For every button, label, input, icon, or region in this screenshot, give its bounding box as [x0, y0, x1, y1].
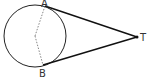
tangent-diagram: A B T — [0, 0, 147, 79]
tangent-bt — [43, 37, 137, 65]
tangent-at — [45, 6, 137, 37]
radius-to-b — [35, 36, 43, 65]
point-t — [136, 36, 139, 39]
radius-to-a — [35, 6, 45, 36]
label-a: A — [41, 0, 48, 9]
label-b: B — [39, 68, 46, 79]
label-t: T — [139, 32, 147, 43]
